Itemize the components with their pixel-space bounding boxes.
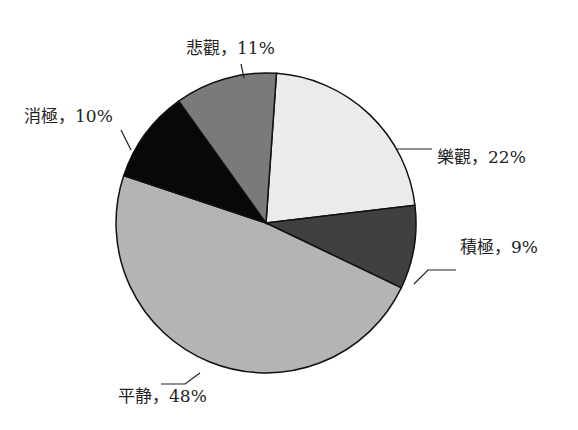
label-pessimistic: 悲觀，11% <box>186 38 275 58</box>
slice-optimistic <box>266 73 415 223</box>
leader-line <box>414 270 456 284</box>
label-optimistic: 樂觀，22% <box>437 147 526 167</box>
leader-line <box>161 373 200 384</box>
pie-slices <box>116 73 416 373</box>
leader-line <box>121 130 131 150</box>
label-calm: 平静，48% <box>118 386 207 406</box>
pie-chart: 樂觀，22% 積極，9% 平静，48% 消極，10% 悲觀，11% <box>0 0 578 430</box>
label-positive: 積極，9% <box>460 237 538 257</box>
label-negative: 消極，10% <box>24 106 113 126</box>
